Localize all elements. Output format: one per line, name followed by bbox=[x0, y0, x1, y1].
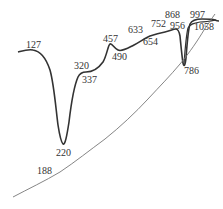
peak-label-1058: 1058 bbox=[194, 22, 214, 32]
peak-label-320: 320 bbox=[74, 61, 89, 71]
peak-label-127: 127 bbox=[26, 40, 41, 50]
peak-label-457: 457 bbox=[103, 34, 118, 44]
peak-label-956: 956 bbox=[170, 21, 185, 31]
peak-label-220: 220 bbox=[56, 148, 71, 158]
peak-label-490: 490 bbox=[112, 52, 127, 62]
tg-label-188: 188 bbox=[37, 166, 52, 176]
peak-label-654: 654 bbox=[143, 37, 158, 47]
peak-label-752: 752 bbox=[151, 19, 166, 29]
peak-label-868: 868 bbox=[165, 10, 180, 20]
chart-canvas bbox=[0, 0, 223, 209]
peak-label-337: 337 bbox=[82, 75, 97, 85]
peak-label-633: 633 bbox=[128, 25, 143, 35]
peak-label-997: 997 bbox=[190, 10, 205, 20]
peak-label-786: 786 bbox=[184, 66, 199, 76]
dta-curve bbox=[18, 19, 219, 144]
thermal-analysis-chart: 127 220 320 337 457 490 633 654 752 868 … bbox=[0, 0, 223, 209]
